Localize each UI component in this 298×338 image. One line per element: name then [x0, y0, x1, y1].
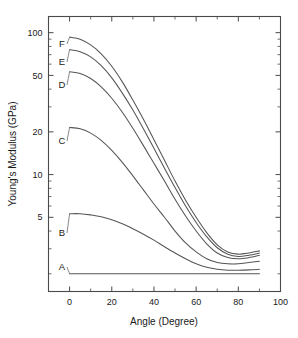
x-axis-title: Angle (Degree) — [130, 316, 198, 327]
x-tick-label: 0 — [67, 297, 72, 307]
chart-background — [0, 0, 298, 338]
x-tick-label: 100 — [273, 297, 288, 307]
y-tick-label: 20 — [32, 127, 42, 137]
x-tick-label: 60 — [191, 297, 201, 307]
chart-figure: 5102050100 020406080100 ABCDEF Angle (De… — [0, 0, 298, 338]
x-tick-label: 40 — [149, 297, 159, 307]
y-tick-label: 50 — [32, 71, 42, 81]
y-axis-title: Young's Modulus (GPa) — [7, 102, 18, 207]
y-tick-label: 100 — [27, 28, 42, 38]
youngs-modulus-vs-angle-chart: 5102050100 020406080100 ABCDEF Angle (De… — [0, 0, 298, 338]
curve-label-D: D — [59, 79, 66, 90]
x-tick-label: 80 — [233, 297, 243, 307]
x-tick-label: 20 — [107, 297, 117, 307]
y-tick-label: 10 — [32, 170, 42, 180]
curve-label-A: A — [59, 261, 66, 272]
curve-label-F: F — [59, 38, 65, 49]
curve-label-C: C — [59, 135, 66, 146]
y-tick-label: 5 — [37, 212, 42, 222]
curve-label-B: B — [59, 227, 65, 238]
curve-label-E: E — [59, 56, 65, 67]
